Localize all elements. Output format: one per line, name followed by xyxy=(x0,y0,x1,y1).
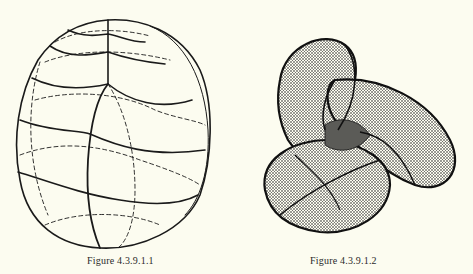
figure-egg-surface xyxy=(0,0,230,250)
figure-caption-2: Figure 4.3.9.1.2 xyxy=(310,255,377,266)
figure-caption-1: Figure 4.3.9.1.1 xyxy=(87,255,154,266)
egg-surface-drawing xyxy=(0,0,230,250)
figure-mesh-surface xyxy=(240,20,473,250)
mesh-surface-drawing xyxy=(240,20,473,250)
